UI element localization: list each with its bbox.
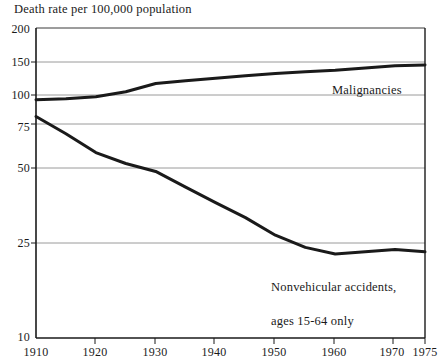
y-axis-label-10: 10 [0, 330, 30, 345]
y-axis-label-150: 150 [0, 55, 30, 70]
x-axis-label-1975: 1975 [413, 345, 438, 360]
y-axis-label-200: 200 [0, 22, 30, 37]
x-axis-label-1950: 1950 [262, 345, 287, 360]
x-axis-label-1960: 1960 [322, 345, 347, 360]
x-axis-label-1930: 1930 [143, 345, 168, 360]
y-axis-label-25: 25 [0, 236, 30, 251]
y-axis-label-50: 50 [0, 161, 30, 176]
x-axis-label-1910: 1910 [24, 345, 49, 360]
chart-container: Death rate per 100,000 population [0, 0, 443, 364]
series-annotation-malignancies: Malignancies [332, 82, 402, 99]
x-axis-ticks [95, 338, 425, 344]
annotation-line-2: ages 15-64 only [271, 314, 354, 328]
series-annotation-nonvehicular-accidents: Nonvehicular accidents, ages 15-64 only [271, 262, 396, 330]
x-axis-label-1970: 1970 [380, 345, 405, 360]
x-axis-label-1920: 1920 [83, 345, 108, 360]
annotation-line-1: Nonvehicular accidents, [271, 280, 396, 294]
y-axis-label-75: 75 [0, 120, 30, 135]
series-line-nonvehicular-accidents [36, 117, 425, 255]
y-axis-label-100: 100 [0, 88, 30, 103]
x-axis-label-1940: 1940 [202, 345, 227, 360]
